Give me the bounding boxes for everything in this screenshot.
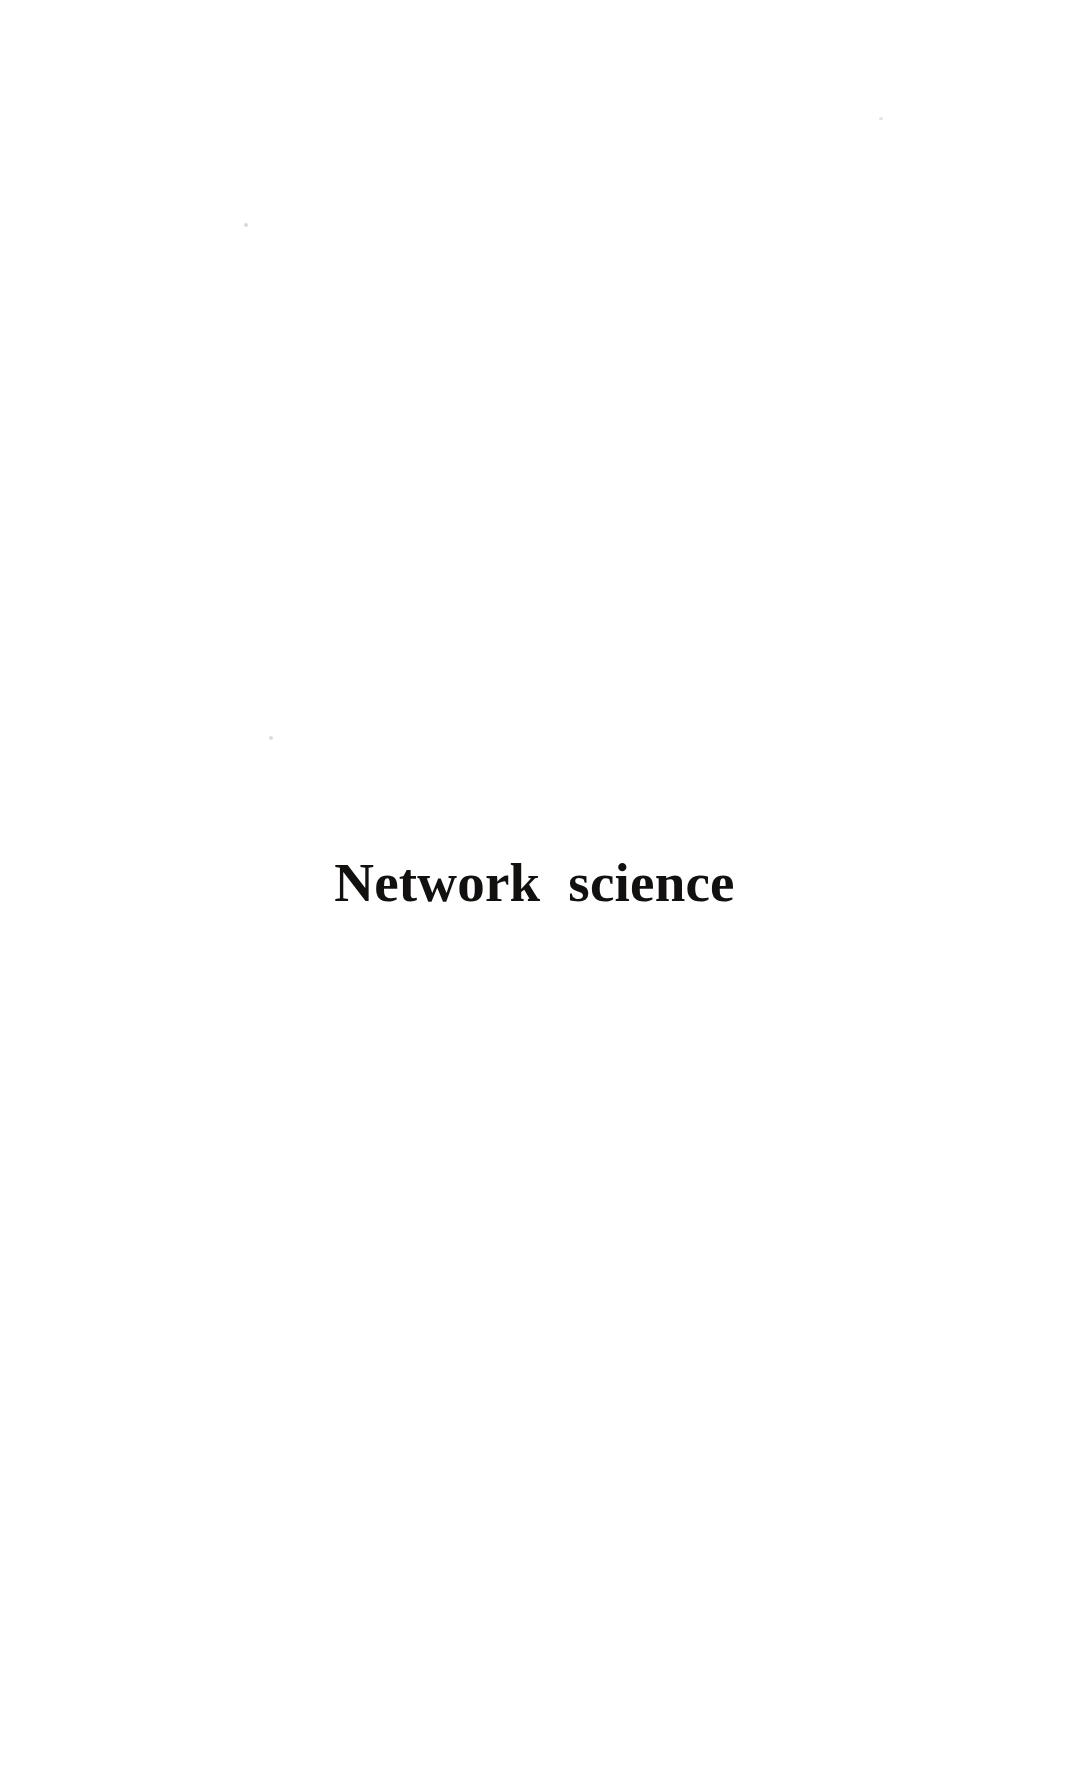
half-title-block: Network science <box>0 0 1069 1772</box>
page-title: Network science <box>334 855 734 910</box>
document-page: Network science <box>0 0 1069 1772</box>
